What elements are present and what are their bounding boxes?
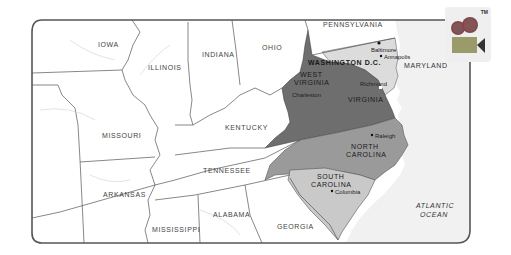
label-annapolis: Annapolis: [384, 53, 410, 61]
label-north-carolina-1: NORTH: [351, 143, 379, 151]
columbia-dot: [331, 190, 333, 192]
label-south-carolina-1: SOUTH: [317, 173, 345, 181]
label-georgia: GEORGIA: [277, 223, 314, 231]
label-atlantic: ATLANTIC: [416, 202, 454, 210]
label-ocean: OCEAN: [420, 211, 448, 219]
label-charleston: Charleston: [292, 91, 321, 99]
label-tennessee: TENNESSEE: [203, 167, 251, 175]
label-west-virginia-1: WEST: [300, 71, 323, 79]
map-frame: IOWA ILLINOIS INDIANA OHIO PENNSYLVANIA …: [0, 0, 511, 255]
label-west-virginia-2: VIRGINIA: [294, 79, 330, 87]
trademark-label: TM: [481, 9, 488, 15]
label-raleigh: Raleigh: [375, 132, 395, 140]
raleigh-dot: [371, 134, 373, 136]
label-virginia: VIRGINIA: [348, 96, 384, 104]
annapolis-dot: [380, 55, 382, 57]
label-indiana: INDIANA: [202, 51, 235, 59]
label-illinois: ILLINOIS: [148, 64, 182, 72]
video-camera-icon: [445, 7, 491, 62]
label-washington-dc: WASHINGTON D.C.: [308, 59, 381, 67]
label-north-carolina-2: CAROLINA: [346, 151, 387, 159]
label-alabama: ALABAMA: [213, 211, 250, 219]
label-ohio: OHIO: [262, 44, 282, 52]
label-mississippi: MISSISSIPPI: [152, 226, 200, 234]
label-pennsylvania: PENNSYLVANIA: [323, 21, 383, 29]
label-missouri: MISSOURI: [102, 132, 141, 140]
label-columbia: Columbia: [335, 188, 360, 196]
baltimore-dot: [377, 41, 380, 44]
label-richmond: Richmond: [360, 80, 387, 88]
label-maryland: MARYLAND: [404, 62, 448, 70]
label-iowa: IOWA: [98, 41, 119, 49]
video-badge[interactable]: TM: [445, 7, 491, 62]
label-kentucky: KENTUCKY: [225, 124, 268, 132]
label-arkansas: ARKANSAS: [103, 191, 146, 199]
